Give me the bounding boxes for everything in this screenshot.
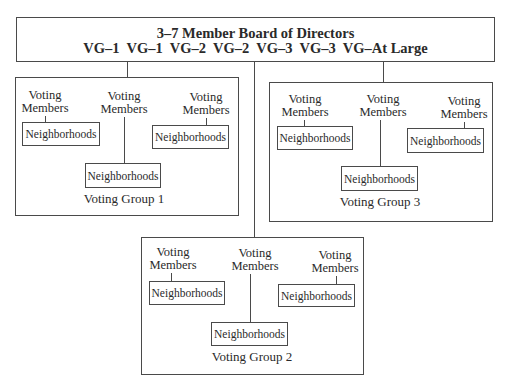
voting-group-3-label: Voting Group 3 [340, 194, 421, 210]
neighborhoods-box: Neighborhoods [277, 126, 353, 150]
neighborhoods-box: Neighborhoods [211, 322, 288, 346]
neighborhoods-box: Neighborhoods [407, 128, 484, 153]
voting-members-label: Voting Members [182, 91, 229, 117]
connector-board-vg2 [254, 62, 255, 238]
board-seats: VG–1 VG–1 VG–2 VG–2 VG–3 VG–3 VG–At Larg… [16, 41, 495, 56]
connector [336, 276, 337, 284]
voting-members-label: Voting Members [100, 90, 147, 116]
voting-members-label: Voting Members [440, 95, 487, 121]
connector [250, 274, 251, 322]
voting-members-label: Voting Members [311, 249, 358, 275]
voting-members-label: Voting Members [359, 93, 406, 119]
neighborhoods-box: Neighborhoods [152, 125, 229, 149]
neighborhoods-box: Neighborhoods [22, 122, 100, 146]
voting-members-label: Voting Members [149, 246, 196, 272]
voting-members-label: Voting Members [281, 93, 328, 119]
connector [206, 118, 207, 125]
connector [171, 273, 172, 281]
voting-members-label: Voting Members [21, 89, 68, 115]
connector-board-vg1 [127, 62, 128, 78]
voting-group-1-label: Voting Group 1 [84, 191, 165, 207]
connector [124, 117, 125, 163]
neighborhoods-box: Neighborhoods [149, 281, 225, 305]
voting-members-label: Voting Members [231, 247, 278, 273]
neighborhoods-box: Neighborhoods [278, 284, 355, 307]
neighborhoods-box: Neighborhoods [85, 163, 161, 188]
voting-group-2-label: Voting Group 2 [212, 349, 293, 365]
board-title: 3–7 Member Board of Directors [16, 26, 495, 41]
connector [380, 120, 381, 166]
connector-board-vg3 [383, 62, 384, 82]
neighborhoods-box: Neighborhoods [341, 166, 418, 191]
